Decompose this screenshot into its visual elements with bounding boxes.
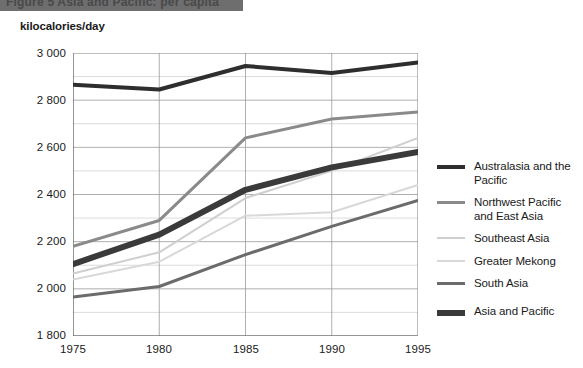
legend-item-greater-mekong[interactable]: Greater Mekong <box>437 255 583 269</box>
chart-legend: Australasia and the Pacific Northwest Pa… <box>437 160 583 327</box>
legend-swatch-greater-mekong <box>437 260 465 262</box>
legend-swatch-southeast-asia <box>437 237 465 239</box>
x-tick-label: 1990 <box>302 343 362 355</box>
y-tick-label: 1 800 <box>8 329 66 341</box>
legend-swatch-australasia <box>437 165 465 169</box>
legend-label: Southeast Asia <box>474 232 549 246</box>
major-gridlines <box>73 53 418 336</box>
figure-title: Figure 5 Asia and Pacific: per capita <box>6 0 219 9</box>
plot-area <box>73 53 418 336</box>
legend-label: Greater Mekong <box>474 255 556 269</box>
legend-item-south-asia[interactable]: South Asia <box>437 277 583 291</box>
x-tick-label: 1980 <box>129 343 189 355</box>
line-chart-svg <box>73 53 418 336</box>
legend-item-southeast-asia[interactable]: Southeast Asia <box>437 232 583 246</box>
x-tick-label: 1985 <box>216 343 276 355</box>
y-tick-label: 3 000 <box>8 47 66 59</box>
y-tick-label: 2 200 <box>8 235 66 247</box>
legend-label: Asia and Pacific <box>474 305 554 319</box>
legend-label: Australasia and the Pacific <box>474 160 583 187</box>
legend-item-asia-and-pacific[interactable]: Asia and Pacific <box>437 305 583 319</box>
legend-swatch-northwest-pacific <box>437 201 465 204</box>
y-tick-label: 2 800 <box>8 94 66 106</box>
x-tick-label: 1995 <box>388 343 448 355</box>
y-tick-label: 2 400 <box>8 188 66 200</box>
chart-page: Figure 5 Asia and Pacific: per capita ki… <box>0 0 583 368</box>
legend-label: Northwest Pacific and East Asia <box>474 196 583 223</box>
figure-title-bar: Figure 5 Asia and Pacific: per capita <box>0 0 243 11</box>
x-tick-label: 1975 <box>43 343 103 355</box>
legend-swatch-south-asia <box>437 282 465 285</box>
legend-label: South Asia <box>474 277 528 291</box>
y-tick-label: 2 600 <box>8 141 66 153</box>
legend-item-northwest-pacific[interactable]: Northwest Pacific and East Asia <box>437 196 583 223</box>
legend-item-australasia[interactable]: Australasia and the Pacific <box>437 160 583 187</box>
y-axis-caption: kilocalories/day <box>20 20 105 32</box>
legend-swatch-asia-and-pacific <box>437 310 465 316</box>
y-tick-label: 2 000 <box>8 282 66 294</box>
